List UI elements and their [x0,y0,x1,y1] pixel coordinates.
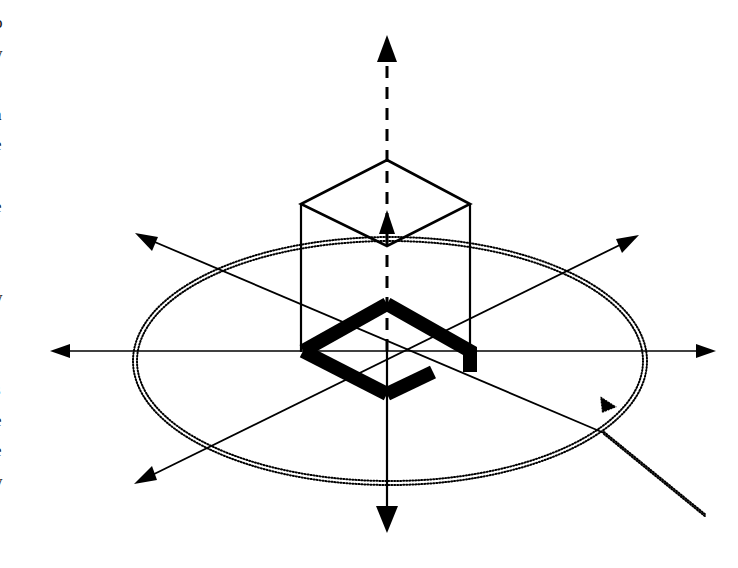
ellipse-outer-stroke [133,237,647,485]
diagonal-nw-se-line [143,237,604,433]
arrowhead-left-icon [50,344,70,358]
arrowhead-z-top-icon [377,35,397,62]
ellipse-leader-line [604,432,706,517]
rotation-arrowhead-fill [600,396,617,413]
coordinate-system-figure [0,0,738,568]
arrowhead-down-left-icon [134,466,157,484]
arrowhead-up-right-icon [616,235,639,253]
loop-arm-lower-left [303,351,387,394]
figure-page: o y r a e t e l l y . . s e e y l [0,0,738,568]
horizontal-axis [50,344,716,358]
rotation-arrowhead-icon [600,396,617,413]
leader-line-stroke-a [604,432,706,515]
loop-arm-lower-right-with-stub [387,372,433,394]
loop-arm-upper-right-with-stub [387,304,470,372]
z-axis [376,35,398,533]
arrowhead-up-left-icon [135,233,158,251]
equatorial-plane-ellipse [133,237,647,485]
arrowhead-z-bottom-icon [376,506,398,533]
arrowhead-z-mid-icon [379,210,395,234]
arrowhead-right-icon [696,344,716,358]
leader-line-stroke-b [604,434,706,517]
